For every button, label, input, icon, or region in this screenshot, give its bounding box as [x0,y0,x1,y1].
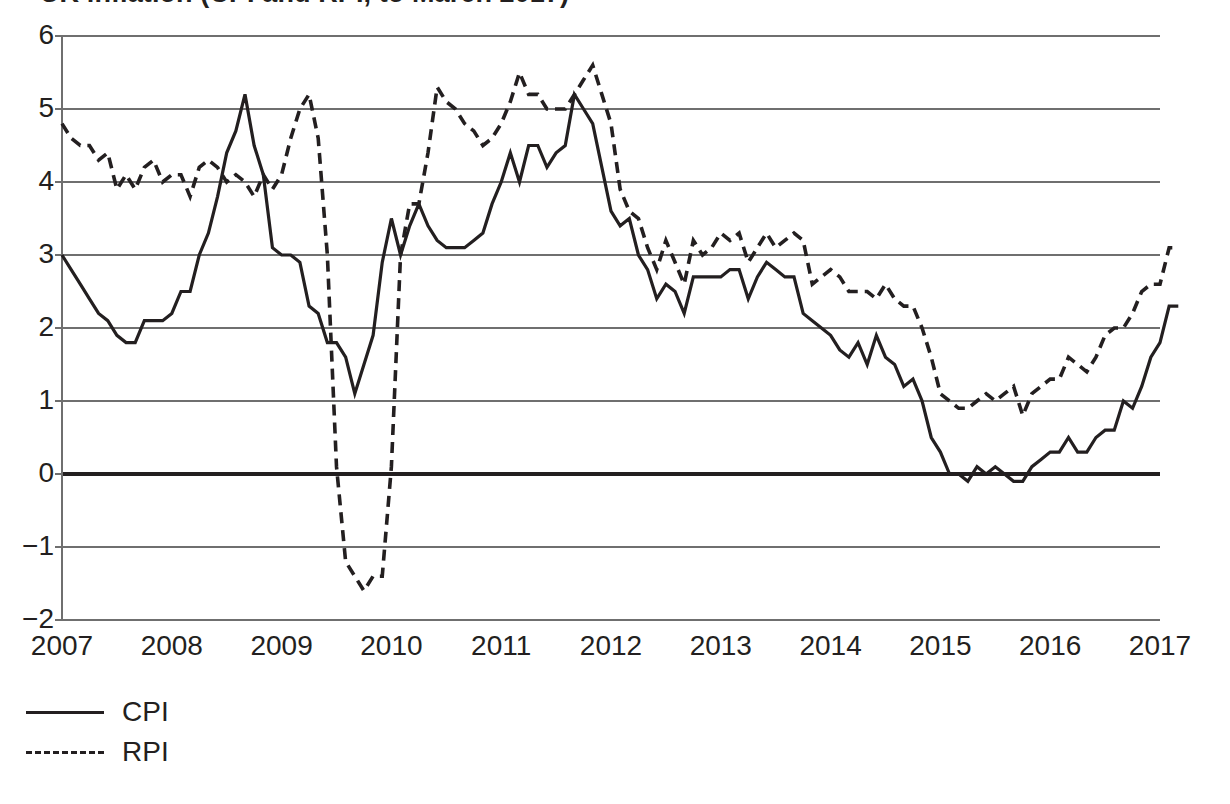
legend-swatch-solid-icon [22,702,108,722]
legend-item-rpi[interactable]: RPI [22,732,422,772]
legend-label: RPI [122,738,169,766]
x-axis-label: 2015 [885,632,995,660]
x-axis-label: 2012 [556,632,666,660]
y-axis-label: 5 [2,94,54,122]
x-axis-label: 2009 [227,632,337,660]
y-axis-label: −2 [2,605,54,633]
plot-area: 6543210−1−2 [0,0,1230,660]
x-axis-label: 2010 [336,632,446,660]
x-axis-label: 2016 [995,632,1105,660]
x-axis-label: 2011 [446,632,556,660]
axis-lines [55,36,62,620]
y-axis-label: 4 [2,167,54,195]
x-axis-label: 2007 [7,632,117,660]
x-axis-label: 2013 [666,632,776,660]
x-axis-tick-labels: 2007200820092010201120122013201420152016… [0,632,1230,678]
chart-legend: CPIRPI [22,692,422,772]
legend-item-cpi[interactable]: CPI [22,692,422,732]
legend-label: CPI [122,698,169,726]
y-axis-label: 6 [2,21,54,49]
y-axis-label: 1 [2,386,54,414]
y-axis-label: −1 [2,532,54,560]
y-axis-tick-labels: 6543210−1−2 [0,0,54,660]
series-line-cpi [62,94,1178,481]
y-axis-label: 0 [2,459,54,487]
y-axis-label: 3 [2,240,54,268]
x-axis-label: 2014 [776,632,886,660]
x-axis-label: 2017 [1105,632,1215,660]
y-axis-label: 2 [2,313,54,341]
gridlines [62,36,1160,620]
line-chart-svg [0,0,1230,660]
inflation-chart-figure: UK inflation (CPI and RPI, to March 2017… [0,0,1230,804]
legend-swatch-dashed-icon [22,742,108,762]
x-axis-label: 2008 [117,632,227,660]
